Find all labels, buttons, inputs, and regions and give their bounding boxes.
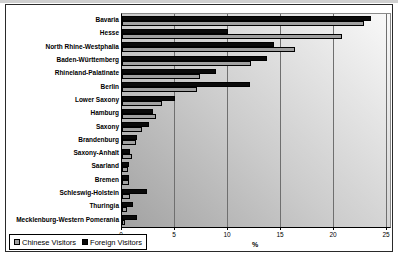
- x-tick-mark-0: [121, 227, 122, 230]
- bar-chinese-visitors-2: [122, 47, 295, 52]
- category-label-4: Rhineland-Palatinate: [8, 66, 119, 79]
- chart-frame: BavariaHesseNorth Rhine-WestphaliaBaden-…: [5, 4, 393, 252]
- chart-canvas: BavariaHesseNorth Rhine-WestphaliaBaden-…: [0, 0, 398, 258]
- category-label-0: Bavaria: [8, 13, 119, 26]
- bar-chinese-visitors-15: [122, 220, 125, 225]
- bar-chinese-visitors-6: [122, 101, 162, 106]
- legend-label-chinese-visitors: Chinese Visitors: [22, 238, 76, 247]
- chinese-visitors-swatch: [14, 239, 20, 245]
- category-label-14: Thuringia: [8, 199, 119, 212]
- legend-item-chinese-visitors: Chinese Visitors: [14, 238, 76, 247]
- bar-chinese-visitors-4: [122, 74, 200, 79]
- x-tick-label-25: 25: [376, 231, 396, 238]
- x-tick-mark-15: [280, 227, 281, 230]
- category-label-7: Hamburg: [8, 106, 119, 119]
- bar-group-10: [122, 147, 390, 160]
- bar-chinese-visitors-12: [122, 180, 129, 185]
- bar-chinese-visitors-1: [122, 34, 342, 39]
- bar-group-8: [122, 121, 390, 134]
- x-tick-label-20: 20: [323, 231, 343, 238]
- category-label-2: North Rhine-Westphalia: [8, 40, 119, 53]
- category-label-9: Brandenburg: [8, 133, 119, 146]
- category-axis: BavariaHesseNorth Rhine-WestphaliaBaden-…: [8, 13, 119, 226]
- x-tick-mark-10: [227, 227, 228, 230]
- bar-group-1: [122, 27, 390, 40]
- category-label-8: Saxony: [8, 120, 119, 133]
- bar-chinese-visitors-11: [122, 167, 128, 172]
- x-axis-label: %: [245, 241, 265, 248]
- bar-group-4: [122, 67, 390, 80]
- x-tick-mark-5: [174, 227, 175, 230]
- legend-label-foreign-visitors: Foreign Visitors: [90, 238, 142, 247]
- bar-group-14: [122, 200, 390, 213]
- x-tick-mark-25: [386, 227, 387, 230]
- x-tick-mark-20: [333, 227, 334, 230]
- bar-group-6: [122, 94, 390, 107]
- bar-group-7: [122, 107, 390, 120]
- bar-chinese-visitors-5: [122, 87, 197, 92]
- category-label-15: Mecklenburg-Western Pomerania: [8, 213, 119, 226]
- bar-chinese-visitors-7: [122, 114, 156, 119]
- bar-group-0: [122, 14, 390, 27]
- bar-group-2: [122, 41, 390, 54]
- bar-group-15: [122, 214, 390, 227]
- x-tick-label-5: 5: [164, 231, 184, 238]
- category-label-13: Schleswig-Holstein: [8, 186, 119, 199]
- category-label-12: Bremen: [8, 173, 119, 186]
- foreign-visitors-swatch: [82, 239, 88, 245]
- category-label-1: Hesse: [8, 26, 119, 39]
- bar-chinese-visitors-3: [122, 61, 251, 66]
- top-edge-strip: [0, 0, 398, 3]
- bar-chinese-visitors-14: [122, 207, 127, 212]
- x-tick-label-15: 15: [270, 231, 290, 238]
- x-tick-label-10: 10: [217, 231, 237, 238]
- category-label-5: Berlin: [8, 80, 119, 93]
- bar-group-11: [122, 160, 390, 173]
- category-label-10: Saxony-Anhalt: [8, 146, 119, 159]
- bar-chinese-visitors-10: [122, 154, 132, 159]
- bar-chinese-visitors-13: [122, 194, 130, 199]
- bar-group-12: [122, 174, 390, 187]
- category-label-11: Saarland: [8, 159, 119, 172]
- bar-group-3: [122, 54, 390, 67]
- category-label-6: Lower Saxony: [8, 93, 119, 106]
- bar-group-5: [122, 81, 390, 94]
- legend: Chinese Visitors Foreign Visitors: [9, 234, 147, 250]
- category-label-3: Baden-Württemberg: [8, 53, 119, 66]
- bar-chinese-visitors-0: [122, 21, 364, 26]
- bar-group-9: [122, 134, 390, 147]
- legend-item-foreign-visitors: Foreign Visitors: [82, 238, 142, 247]
- bar-group-13: [122, 187, 390, 200]
- bar-chinese-visitors-8: [122, 127, 142, 132]
- plot-area: [121, 13, 391, 228]
- bar-chinese-visitors-9: [122, 140, 136, 145]
